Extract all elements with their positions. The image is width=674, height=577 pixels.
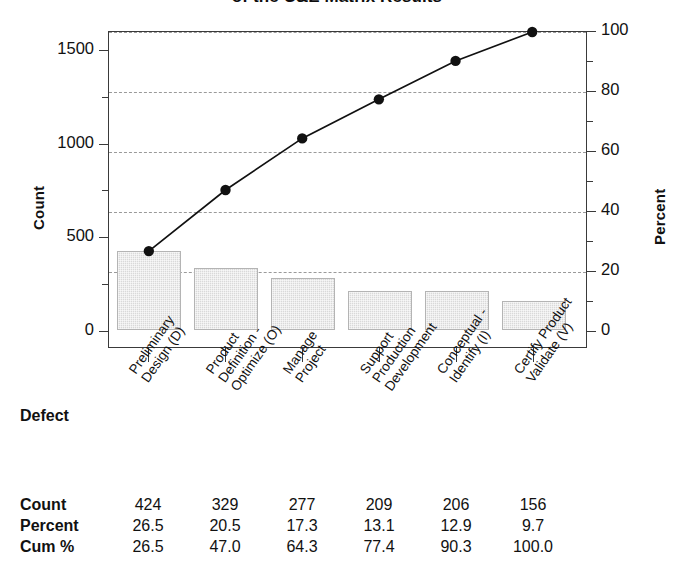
y-axis-right-tick-label: 80: [601, 80, 645, 99]
y-axis-left-tick-label: 500: [20, 226, 94, 245]
cumulative-line-series: [109, 32, 586, 347]
y-axis-left-tick-label: 1500: [20, 39, 94, 58]
y-axis-right-tick-label: 100: [601, 20, 645, 39]
y-axis-right-minor-tick: [587, 61, 593, 62]
line-marker: [374, 94, 384, 104]
y-axis-right-tick-label: 0: [601, 320, 645, 339]
line-marker: [297, 133, 307, 143]
y-axis-left-title: Count: [30, 186, 47, 230]
table-cell: 64.3: [264, 538, 340, 556]
y-axis-right-minor-tick: [587, 241, 593, 242]
table-cell: 424: [110, 496, 186, 514]
cumulative-line: [149, 32, 532, 251]
table-cell: 209: [341, 496, 417, 514]
table-row: Cum %26.547.064.377.490.3100.0: [0, 538, 674, 559]
table-cell: 9.7: [495, 517, 571, 535]
table-row-label: Count: [20, 496, 66, 514]
table-cell: 206: [418, 496, 494, 514]
y-axis-right-tick-label: 40: [601, 200, 645, 219]
line-marker: [144, 246, 154, 256]
y-axis-right-minor-tick: [587, 121, 593, 122]
table-cell: 329: [187, 496, 263, 514]
table-row: Percent26.520.517.313.112.99.7: [0, 517, 674, 538]
y-axis-right-minor-tick: [587, 181, 593, 182]
y-axis-right-tick: [587, 91, 596, 92]
y-axis-left-tick: [99, 144, 108, 145]
table-cell: 20.5: [187, 517, 263, 535]
line-marker: [527, 27, 537, 37]
data-table: Count424329277209206156Percent26.520.517…: [0, 496, 674, 559]
chart-title: of the C&E Matrix Results: [0, 0, 674, 7]
y-axis-right-tick-label: 20: [601, 260, 645, 279]
line-marker: [220, 185, 230, 195]
pareto-chart-figure: of the C&E Matrix Results Count 05001000…: [0, 0, 674, 577]
y-axis-left-tick: [99, 237, 108, 238]
y-axis-right-title: Percent: [651, 189, 668, 245]
y-axis-right-tick: [587, 151, 596, 152]
table-cell: 17.3: [264, 517, 340, 535]
table-cell: 26.5: [110, 517, 186, 535]
table-cell: 277: [264, 496, 340, 514]
y-axis-left-tick: [99, 331, 108, 332]
y-axis-right-tick: [587, 331, 596, 332]
table-row-label: Percent: [20, 517, 79, 535]
y-axis-left-tick-label: 1000: [20, 133, 94, 152]
table-cell: 100.0: [495, 538, 571, 556]
table-cell: 77.4: [341, 538, 417, 556]
table-cell: 90.3: [418, 538, 494, 556]
y-axis-right-minor-tick: [587, 301, 593, 302]
y-axis-right-tick: [587, 31, 596, 32]
table-cell: 26.5: [110, 538, 186, 556]
table-cell: 12.9: [418, 517, 494, 535]
x-axis-title: Defect: [20, 407, 69, 425]
table-row: Count424329277209206156: [0, 496, 674, 517]
plot-area: [108, 31, 587, 348]
y-axis-left-tick-label: 0: [20, 320, 94, 339]
y-axis-right-tick: [587, 211, 596, 212]
y-axis-right-tick-label: 60: [601, 140, 645, 159]
table-row-label: Cum %: [20, 538, 74, 556]
table-cell: 156: [495, 496, 571, 514]
table-cell: 47.0: [187, 538, 263, 556]
y-axis-right-tick: [587, 271, 596, 272]
table-cell: 13.1: [341, 517, 417, 535]
y-axis-left-tick: [99, 50, 108, 51]
line-marker: [450, 56, 460, 66]
